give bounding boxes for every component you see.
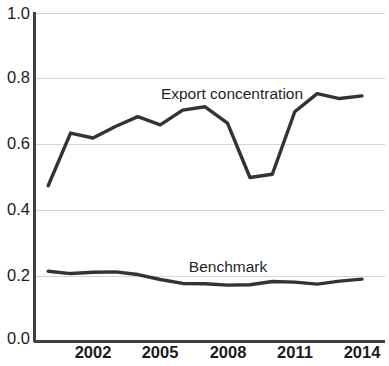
y-tick-label-0-4: 0.4	[7, 200, 30, 218]
x-tick-label-2011: 2011	[277, 343, 313, 361]
y-tick-label-1-0: 1.0	[7, 4, 30, 22]
data-series-group	[48, 94, 362, 285]
series-line-export-concentration	[48, 94, 362, 186]
line-chart: 1.0 0.8 0.6 0.4 0.2 0.0 2002 2005 2008 2…	[0, 0, 389, 366]
series-label-benchmark: Benchmark	[189, 258, 268, 275]
series-label-export-concentration: Export concentration	[161, 85, 303, 102]
y-tick-label-0-6: 0.6	[7, 134, 30, 152]
y-tick-label-0-2: 0.2	[7, 266, 30, 284]
gridlines	[34, 13, 385, 276]
series-annotations: Export concentration Benchmark	[161, 85, 303, 275]
y-tick-label-0-0: 0.0	[7, 329, 30, 347]
chart-container: 1.0 0.8 0.6 0.4 0.2 0.0 2002 2005 2008 2…	[0, 0, 389, 366]
x-tick-label-2008: 2008	[210, 343, 247, 361]
x-tick-label-2005: 2005	[142, 343, 179, 361]
y-tick-label-0-8: 0.8	[7, 68, 30, 86]
y-axis-tick-labels: 1.0 0.8 0.6 0.4 0.2 0.0	[7, 4, 30, 347]
x-tick-label-2002: 2002	[75, 343, 112, 361]
axis-lines	[34, 12, 385, 342]
x-tick-label-2014: 2014	[344, 343, 382, 361]
x-axis-tick-labels: 2002 2005 2008 2011 2014	[75, 343, 382, 361]
